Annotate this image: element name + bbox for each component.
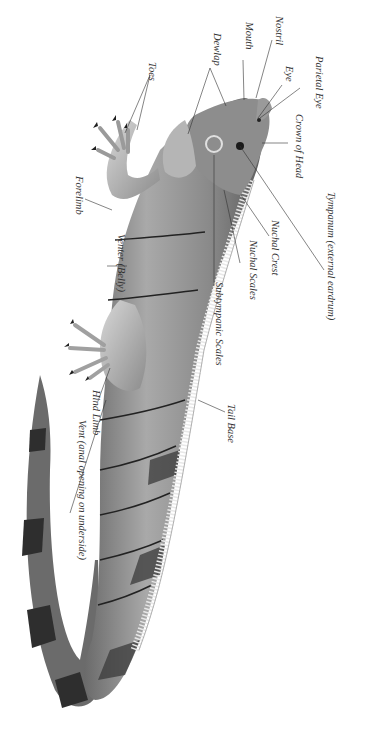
label-toes: Toes: [147, 62, 158, 81]
label-tympanum: Tympanum (external eardrum): [326, 192, 337, 320]
label-vent: Vent (anal opening on underside): [77, 420, 88, 560]
label-nostril: Nostril: [274, 16, 285, 45]
label-mouth: Mouth: [244, 22, 255, 49]
label-crown-of-head: Crown of Head: [294, 114, 305, 178]
label-eye: Eye: [284, 66, 295, 82]
label-parietal-eye: Parietal Eye: [314, 56, 325, 109]
label-tail-base: Tail Base: [226, 404, 237, 443]
label-forelimb: Forelimb: [74, 176, 85, 215]
iguana-diagram: Nostril Mouth Parietal Eye Eye Dewlap Cr…: [0, 0, 372, 729]
label-venter: Venter (Belly): [116, 234, 127, 292]
label-subtympanic-scales: Subtympanic Scales: [214, 282, 225, 366]
label-nuchal-crest: Nuchal Crest: [270, 220, 281, 275]
label-dewlap: Dewlap: [212, 33, 223, 66]
label-hind-limb: Hind Limb: [91, 390, 102, 435]
iguana-illustration: [0, 0, 372, 729]
label-nuchal-scales: Nuchal Scales: [248, 240, 259, 300]
